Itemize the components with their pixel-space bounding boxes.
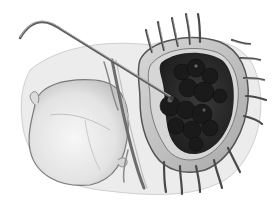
surgical-illustration — [0, 0, 280, 201]
illustration-svg — [0, 0, 280, 201]
